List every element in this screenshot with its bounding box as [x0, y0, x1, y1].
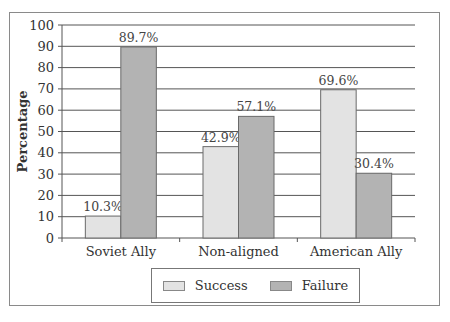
legend-item-success: Success — [163, 278, 248, 293]
y-tick-label: 30 — [37, 167, 54, 182]
y-axis-title: Percentage — [15, 91, 30, 173]
category-label: Non-aligned — [198, 244, 279, 259]
data-label: 57.1% — [236, 99, 276, 114]
y-tick-label: 80 — [37, 60, 54, 75]
bar-success-american-ally — [321, 90, 357, 238]
data-label: 42.9% — [201, 130, 241, 145]
y-tick-label: 40 — [37, 145, 54, 160]
legend-swatch-success — [163, 281, 185, 291]
bar-failure-american-ally — [356, 173, 392, 238]
category-label: Soviet Ally — [86, 244, 157, 259]
legend-label-failure: Failure — [302, 278, 348, 293]
bar-failure-non-aligned — [239, 116, 275, 238]
legend-label-success: Success — [195, 278, 248, 293]
legend-item-failure: Failure — [270, 278, 348, 293]
data-label: 10.3% — [83, 199, 123, 214]
legend-swatch-failure — [270, 281, 292, 291]
bar-failure-soviet-ally — [121, 47, 157, 238]
chart-legend: Success Failure — [151, 268, 360, 303]
y-tick-label: 100 — [29, 18, 54, 33]
y-tick-label: 70 — [37, 81, 54, 96]
category-label: American Ally — [309, 244, 403, 259]
data-label: 89.7% — [119, 30, 159, 45]
data-label: 69.6% — [319, 73, 359, 88]
y-tick-label: 10 — [37, 209, 54, 224]
y-tick-label: 60 — [37, 103, 54, 118]
y-tick-label: 0 — [46, 231, 54, 246]
bar-success-soviet-ally — [85, 216, 121, 238]
y-tick-label: 90 — [37, 39, 54, 54]
bar-success-non-aligned — [203, 147, 239, 238]
data-label: 30.4% — [354, 156, 394, 171]
y-tick-label: 50 — [37, 124, 54, 139]
y-tick-label: 20 — [37, 188, 54, 203]
